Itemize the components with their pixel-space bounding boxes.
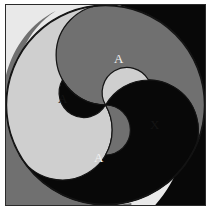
figure-root: A A A X (0, 0, 212, 217)
spiral-figure-plate: A A A X (5, 4, 206, 206)
spiral-diagram-svg (6, 5, 205, 205)
